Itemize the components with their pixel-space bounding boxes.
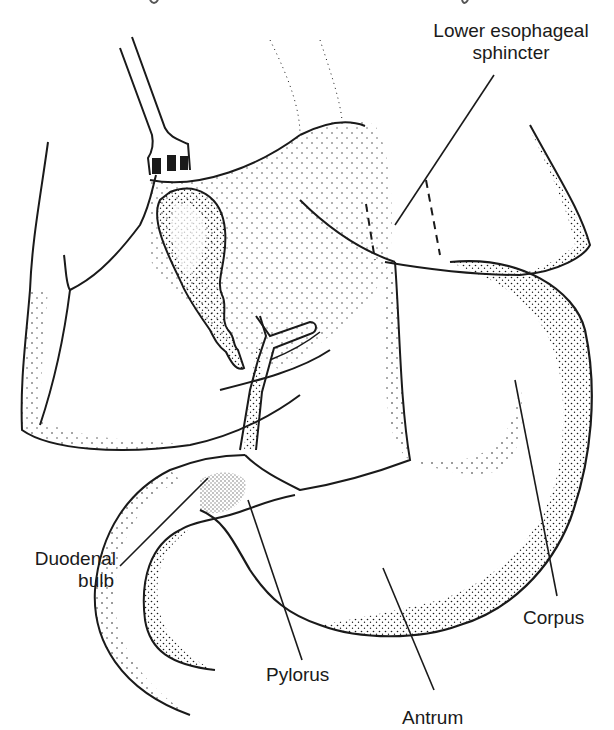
label-corpus: Corpus (523, 607, 584, 629)
caption-fragment (150, 0, 468, 3)
anatomy-figure: Lower esophageal sphincter Duodenal bulb… (0, 0, 614, 730)
label-pylorus: Pylorus (266, 664, 329, 686)
leader-line-lower-esophageal-sphincter (395, 75, 494, 225)
label-duodenal-bulb: Duodenal bulb (8, 548, 116, 592)
label-lower-esophageal-sphincter-line1: Lower esophageal (408, 20, 614, 42)
label-duodenal-bulb-line2: bulb (8, 570, 116, 592)
duodenum (95, 455, 295, 715)
label-duodenal-bulb-line1: Duodenal (8, 548, 116, 570)
label-antrum: Antrum (402, 707, 463, 729)
stomach-gallbladder-illustration (0, 0, 614, 730)
forceps-icon (120, 37, 190, 175)
label-lower-esophageal-sphincter-line2: sphincter (408, 42, 614, 64)
label-lower-esophageal-sphincter: Lower esophageal sphincter (408, 20, 614, 64)
